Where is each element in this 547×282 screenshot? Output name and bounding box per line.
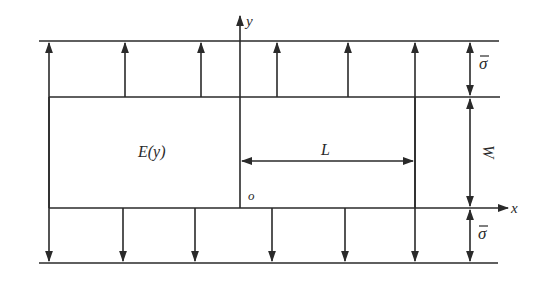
length-label: L <box>320 141 330 158</box>
modulus-label: E(y) <box>137 143 166 161</box>
x-axis-label: x <box>510 200 518 216</box>
stress-bottom-label: σ <box>478 224 488 243</box>
stress-top-label: σ <box>479 54 489 73</box>
bottom-stress-arrows <box>49 97 415 261</box>
sigma-bottom-symbol: σ <box>478 224 487 243</box>
y-axis-label: y <box>244 13 253 29</box>
origin-label: o <box>248 188 255 203</box>
width-label: W <box>480 145 497 160</box>
sigma-top-symbol: σ <box>479 54 488 73</box>
stressed-strip-diagram: y x o E(y) L W σ σ <box>0 0 547 282</box>
width-label-group: W <box>480 145 497 160</box>
top-stress-arrows <box>49 43 415 208</box>
